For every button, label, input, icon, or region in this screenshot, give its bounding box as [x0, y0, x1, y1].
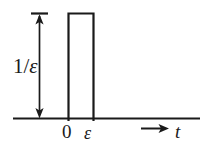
amplitude-label: 1/ε	[13, 56, 38, 77]
tick-label-origin: 0	[62, 122, 72, 141]
tick-label-pulse-end: ε	[84, 124, 91, 142]
pulse-waveform	[69, 14, 94, 119]
time-axis-label: t	[175, 122, 180, 141]
right-arrow-icon	[141, 124, 169, 133]
pulse-function-figure: 1/ε 0 ε t	[0, 0, 207, 150]
amplitude-label-epsilon: ε	[29, 54, 37, 78]
amplitude-label-text: 1/	[13, 54, 29, 78]
